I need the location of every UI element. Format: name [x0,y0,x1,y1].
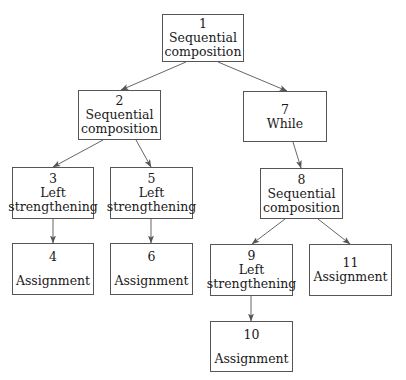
node-label: Sequential composition [165,31,242,59]
node-label: Left strengthening [107,186,196,214]
node-number: 10 [244,328,260,342]
node-label: Sequential composition [263,187,340,215]
node-label: Assignment [214,352,288,366]
tree-node-8: 8 Sequential composition [260,168,343,219]
tree-node-10: 10 Assignment [210,321,293,372]
edge-arrow-8-to-11 [318,219,350,244]
tree-node-1: 1 Sequential composition [162,14,244,62]
edge-arrow-8-to-9 [252,219,285,244]
node-label: Assignment [114,274,188,288]
node-number: 7 [281,103,289,117]
node-label: Left strengthening [207,263,296,291]
node-label: While [267,117,303,131]
node-number: 3 [49,172,57,186]
tree-node-11: 11 Assignment [309,244,392,296]
node-number: 8 [298,173,306,187]
tree-node-3: 3 Left strengthening [12,167,94,219]
edge-arrow-1-to-2 [121,62,186,90]
tree-node-6: 6 Assignment [110,243,193,295]
node-number: 1 [199,17,207,31]
edge-arrow-1-to-7 [218,62,287,91]
tree-node-9: 9 Left strengthening [210,244,293,296]
node-label: Assignment [16,274,90,288]
tree-node-5: 5 Left strengthening [110,167,193,219]
edge-arrow-2-to-3 [53,140,103,167]
node-label: Left strengthening [8,186,97,214]
node-number: 2 [116,94,124,108]
proof-tree-diagram: 1 Sequential composition 2 Sequential co… [0,0,406,380]
edge-arrow-2-to-5 [136,140,151,167]
node-number: 4 [49,250,57,264]
edge-arrow-7-to-8 [293,142,301,168]
node-number: 5 [148,172,156,186]
node-number: 6 [148,250,156,264]
node-number: 9 [248,249,256,263]
tree-node-2: 2 Sequential composition [78,90,161,140]
node-label: Assignment [313,270,387,284]
tree-node-7: 7 While [243,91,327,142]
tree-node-4: 4 Assignment [12,243,94,295]
node-label: Sequential composition [81,108,158,136]
node-number: 11 [343,256,359,270]
